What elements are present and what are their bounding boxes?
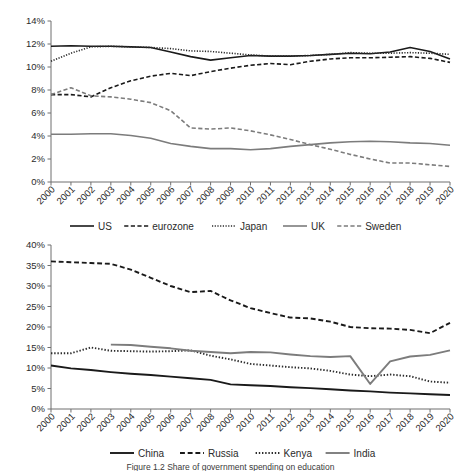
x-axis-tick-label: 2013 <box>294 184 317 207</box>
legend-label-sweden: Sweden <box>365 221 401 232</box>
series-line-sweden <box>51 88 450 167</box>
y-axis-tick-label: 15% <box>26 342 46 353</box>
x-axis-tick-label: 2008 <box>194 184 217 207</box>
x-axis-tick-label: 2019 <box>413 411 436 434</box>
y-axis-tick-label: 0% <box>31 176 45 187</box>
lower-chart-block: 0%5%10%15%20%25%30%35%40%200020012002200… <box>0 235 461 462</box>
x-axis-tick-label: 2013 <box>294 411 317 434</box>
education-spending-advanced-economies-chart: 0%2%4%6%8%10%12%14%200020012002200320042… <box>0 0 461 235</box>
x-axis-tick-label: 2020 <box>433 411 456 434</box>
x-axis-tick-label: 2001 <box>54 184 77 207</box>
legend-label-kenya: Kenya <box>284 448 313 459</box>
x-axis-tick-label: 2008 <box>194 411 217 434</box>
series-line-china <box>51 366 450 396</box>
legend-label-us: US <box>98 221 112 232</box>
legend-label-russia: Russia <box>208 448 239 459</box>
y-axis-tick-label: 25% <box>26 301 46 312</box>
x-axis-tick-label: 2007 <box>174 411 197 434</box>
education-spending-emerging-economies-chart: 0%5%10%15%20%25%30%35%40%200020012002200… <box>0 235 461 462</box>
legend-label-japan: Japan <box>240 221 267 232</box>
y-axis-tick-label: 8% <box>31 84 45 95</box>
legend-label-uk: UK <box>311 221 325 232</box>
y-axis-tick-label: 12% <box>26 38 46 49</box>
x-axis-tick-label: 2015 <box>333 184 356 207</box>
y-axis-tick-label: 35% <box>26 260 46 271</box>
x-axis-tick-label: 2009 <box>214 411 237 434</box>
figure-caption: Figure 1.2 Share of government spending … <box>0 462 461 471</box>
x-axis-tick-label: 2003 <box>94 411 117 434</box>
x-axis-tick-label: 2004 <box>114 184 137 207</box>
x-axis-tick-label: 2012 <box>274 184 297 207</box>
x-axis-tick-label: 2003 <box>94 184 117 207</box>
y-axis-tick-label: 5% <box>31 383 45 394</box>
x-axis-tick-label: 2012 <box>274 411 297 434</box>
x-axis-tick-label: 2011 <box>254 411 276 433</box>
legend-label-india: India <box>354 448 376 459</box>
y-axis-tick-label: 10% <box>26 362 46 373</box>
y-axis-tick-label: 10% <box>26 61 46 72</box>
x-axis-tick-label: 2009 <box>214 184 237 207</box>
series-line-uk <box>51 134 450 150</box>
x-axis-tick-label: 2019 <box>413 184 436 207</box>
x-axis-tick-label: 2018 <box>393 184 416 207</box>
y-axis-tick-label: 0% <box>31 403 45 414</box>
x-axis-tick-label: 2006 <box>154 184 177 207</box>
x-axis-tick-label: 2016 <box>353 411 376 434</box>
series-line-eurozone <box>51 57 450 97</box>
x-axis-tick-label: 2017 <box>373 411 396 434</box>
x-axis-tick-label: 2011 <box>254 184 276 206</box>
x-axis-tick-label: 2002 <box>74 184 97 207</box>
x-axis-tick-label: 2010 <box>234 184 257 207</box>
x-axis-tick-label: 2014 <box>313 184 336 207</box>
legend-label-eurozone: eurozone <box>152 221 194 232</box>
y-axis-tick-label: 14% <box>26 15 46 26</box>
y-axis-tick-label: 6% <box>31 107 45 118</box>
y-axis-tick-label: 4% <box>31 130 45 141</box>
legend-label-china: China <box>138 448 165 459</box>
y-axis-tick-label: 2% <box>31 153 45 164</box>
x-axis-tick-label: 2005 <box>134 411 157 434</box>
x-axis-tick-label: 2007 <box>174 184 197 207</box>
x-axis-tick-label: 2005 <box>134 184 157 207</box>
x-axis-tick-label: 2018 <box>393 411 416 434</box>
series-line-india <box>111 345 450 384</box>
x-axis-tick-label: 2015 <box>333 411 356 434</box>
upper-chart-block: 0%2%4%6%8%10%12%14%200020012002200320042… <box>0 0 461 235</box>
series-line-japan <box>51 46 450 61</box>
x-axis-tick-label: 2017 <box>373 184 396 207</box>
x-axis-tick-label: 2016 <box>353 184 376 207</box>
x-axis-tick-label: 2010 <box>234 411 257 434</box>
x-axis-tick-label: 2004 <box>114 411 137 434</box>
x-axis-tick-label: 2006 <box>154 411 177 434</box>
y-axis-tick-label: 40% <box>26 239 46 250</box>
x-axis-tick-label: 2020 <box>433 184 456 207</box>
y-axis-tick-label: 20% <box>26 321 46 332</box>
x-axis-tick-label: 2002 <box>74 411 97 434</box>
series-line-russia <box>51 261 450 333</box>
x-axis-tick-label: 2001 <box>54 411 77 434</box>
x-axis-tick-label: 2014 <box>313 411 336 434</box>
y-axis-tick-label: 30% <box>26 280 46 291</box>
